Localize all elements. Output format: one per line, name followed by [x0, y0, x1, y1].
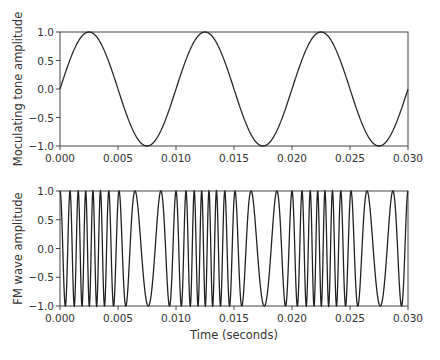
y-tick-label: 0.0	[37, 83, 54, 95]
x-tick-label: 0.000	[45, 152, 75, 164]
x-tick-label: 0.025	[335, 152, 365, 164]
series-line	[60, 191, 408, 306]
x-tick-label: 0.010	[161, 312, 191, 324]
x-tick-label: 0.030	[393, 312, 423, 324]
x-tick-label: 0.025	[335, 312, 365, 324]
y-tick-label: 1.0	[37, 185, 54, 197]
fm-wave-plot: 0.0000.0050.0100.0150.0200.0250.0301.00.…	[11, 185, 423, 342]
y-tick-label: −1.0	[29, 140, 55, 152]
x-tick-label: 0.000	[45, 312, 75, 324]
y-tick-label: 0.0	[37, 243, 54, 255]
x-tick-label: 0.005	[103, 152, 133, 164]
y-tick-label: 0.5	[37, 214, 54, 226]
figure: 0.0000.0050.0100.0150.0200.0250.0301.00.…	[0, 0, 440, 360]
y-tick-label: −0.5	[29, 112, 55, 124]
series-line	[60, 32, 408, 146]
modulating-tone-plot: 0.0000.0050.0100.0150.0200.0250.0301.00.…	[11, 12, 423, 166]
y-axis-label: Moculating tone amplitude	[11, 12, 25, 166]
x-tick-label: 0.020	[277, 152, 307, 164]
y-tick-label: 0.5	[37, 55, 54, 67]
x-tick-label: 0.020	[277, 312, 307, 324]
x-tick-label: 0.005	[103, 312, 133, 324]
x-tick-label: 0.015	[219, 312, 249, 324]
y-tick-label: −0.5	[29, 271, 55, 283]
y-tick-label: −1.0	[29, 300, 55, 312]
y-axis-label: FM wave amplitude	[11, 192, 25, 304]
y-tick-label: 1.0	[37, 26, 54, 38]
x-axis-label: Time (seconds)	[189, 328, 278, 342]
x-tick-label: 0.030	[393, 152, 423, 164]
x-tick-label: 0.010	[161, 152, 191, 164]
x-tick-label: 0.015	[219, 152, 249, 164]
